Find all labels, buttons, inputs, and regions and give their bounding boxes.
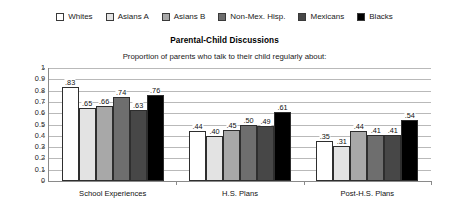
y-axis-tick-mark — [42, 181, 45, 182]
bar: .74 — [113, 97, 130, 181]
x-axis-category-label: H.S. Plans — [222, 189, 258, 198]
legend-entry: Asians B — [162, 12, 206, 21]
bar: .41 — [384, 135, 401, 181]
bar-value-label: .49 — [260, 118, 271, 126]
chart-subtitle: Proportion of parents who talk to their … — [0, 52, 449, 61]
y-axis-tick-mark — [42, 158, 45, 159]
y-axis-tick-label: 1 — [5, 64, 45, 71]
y-axis-tick-label: 0.3 — [5, 143, 45, 150]
bar: .61 — [274, 112, 291, 181]
y-axis-tick-mark — [42, 91, 45, 92]
bar-value-label: .54 — [404, 112, 415, 120]
legend-label: Asians A — [118, 12, 149, 21]
x-axis-category-label: School Experiences — [79, 189, 146, 198]
legend-swatch-icon — [162, 13, 170, 21]
bar: .65 — [79, 108, 96, 181]
bar-value-label: .76 — [150, 87, 161, 95]
legend-entry: Non-Mex. Hisp. — [218, 12, 285, 21]
y-axis-tick-mark — [42, 113, 45, 114]
bar-value-label: .61 — [277, 104, 288, 112]
bar: .66 — [96, 106, 113, 181]
bar: .45 — [223, 130, 240, 181]
bar: .49 — [257, 126, 274, 181]
bar: .40 — [206, 136, 223, 181]
bar-value-label: .41 — [387, 127, 398, 135]
bar-value-label: .35 — [319, 133, 330, 141]
bar: .41 — [367, 135, 384, 181]
category-tick-mark — [304, 181, 305, 185]
y-axis-tick-mark — [42, 170, 45, 171]
legend-entry: Asians A — [106, 12, 149, 21]
bar-groups: .83.65.66.74.63.76School Experiences.44.… — [49, 68, 431, 181]
legend-label: Mexicans — [310, 12, 344, 21]
y-axis-tick-label: 0.4 — [5, 132, 45, 139]
bar-value-label: .44 — [353, 123, 364, 131]
y-axis-tick-label: 0.1 — [5, 166, 45, 173]
legend-swatch-icon — [298, 13, 306, 21]
y-axis-tick-label: 0.7 — [5, 98, 45, 105]
plot-wrapper: 10.90.80.70.60.50.40.30.20.10 .83.65.66.… — [0, 64, 449, 204]
y-axis-tick-mark — [42, 102, 45, 103]
legend-swatch-icon — [357, 13, 365, 21]
bar: .76 — [147, 95, 164, 181]
chart-title: Parental-Child Discussions — [0, 36, 449, 45]
bar-value-label: .65 — [82, 100, 93, 108]
bar-value-label: .40 — [209, 128, 220, 136]
legend-label: Blacks — [369, 12, 393, 21]
x-axis-category-label: Post-H.S. Plans — [341, 189, 395, 198]
legend-swatch-icon — [218, 13, 226, 21]
y-axis-tick-label: 0.5 — [5, 121, 45, 128]
y-axis-tick-mark — [42, 147, 45, 148]
bar: .31 — [333, 146, 350, 181]
plot-area: .83.65.66.74.63.76School Experiences.44.… — [48, 68, 431, 182]
bar-group: .44.40.45.50.49.61 — [189, 68, 291, 181]
bar: .44 — [350, 131, 367, 181]
bar-value-label: .66 — [99, 98, 110, 106]
bar: .63 — [130, 110, 147, 181]
bar: .50 — [240, 125, 257, 182]
legend-swatch-icon — [106, 13, 114, 21]
y-axis: 10.90.80.70.60.50.40.30.20.10 — [0, 68, 45, 181]
y-axis-tick-label: 0.6 — [5, 110, 45, 117]
bar-value-label: .31 — [336, 138, 347, 146]
legend-label: Whites — [68, 12, 92, 21]
y-axis-tick-label: 0 — [5, 177, 45, 184]
legend-entry: Whites — [56, 12, 92, 21]
legend-entry: Mexicans — [298, 12, 344, 21]
bar: .83 — [62, 87, 79, 181]
bar-group: .83.65.66.74.63.76 — [62, 68, 164, 181]
bar-value-label: .44 — [192, 123, 203, 131]
bar-group: .35.31.44.41.41.54 — [316, 68, 418, 181]
legend-label: Asians B — [174, 12, 206, 21]
bar-value-label: .83 — [65, 79, 76, 87]
y-axis-tick-label: 0.2 — [5, 155, 45, 162]
y-axis-tick-mark — [42, 79, 45, 80]
y-axis-tick-mark — [42, 125, 45, 126]
y-axis-tick-label: 0.9 — [5, 76, 45, 83]
bar-chart-figure: WhitesAsians AAsians BNon-Mex. Hisp.Mexi… — [0, 0, 449, 204]
category-tick-mark — [431, 181, 432, 185]
bar: .44 — [189, 131, 206, 181]
bar-value-label: .45 — [226, 122, 237, 130]
bar: .54 — [401, 120, 418, 181]
legend-label: Non-Mex. Hisp. — [230, 12, 285, 21]
chart-legend: WhitesAsians AAsians BNon-Mex. Hisp.Mexi… — [0, 12, 449, 21]
category-tick-mark — [176, 181, 177, 185]
bar-value-label: .74 — [116, 89, 127, 97]
bar: .35 — [316, 141, 333, 181]
bar-value-label: .41 — [370, 127, 381, 135]
bar-value-label: .50 — [243, 117, 254, 125]
y-axis-tick-mark — [42, 136, 45, 137]
y-axis-tick-label: 0.8 — [5, 87, 45, 94]
bar-value-label: .63 — [133, 102, 144, 110]
legend-entry: Blacks — [357, 12, 393, 21]
legend-swatch-icon — [56, 13, 64, 21]
y-axis-tick-mark — [42, 68, 45, 69]
